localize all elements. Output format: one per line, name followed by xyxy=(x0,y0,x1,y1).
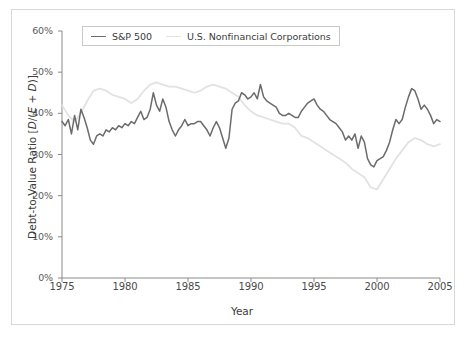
legend-label: U.S. Nonfinancial Corporations xyxy=(187,31,331,42)
y-axis-tick-label: 60% xyxy=(23,25,53,36)
series-line-u-s-nonfinancial-corporations xyxy=(62,82,440,189)
legend-line-swatch-icon xyxy=(91,36,106,37)
y-axis-label-d2: D xyxy=(26,83,38,91)
x-axis-tick-label: 1980 xyxy=(105,281,145,292)
legend-entry[interactable]: S&P 500 xyxy=(91,31,152,42)
y-axis-label-d: D xyxy=(26,121,38,129)
x-axis-tick-label: 1990 xyxy=(231,281,271,292)
x-axis-tick-label: 2000 xyxy=(357,281,397,292)
legend-entry[interactable]: U.S. Nonfinancial Corporations xyxy=(166,31,331,42)
y-axis-label-e: E xyxy=(26,107,38,114)
legend-label: S&P 500 xyxy=(112,31,152,42)
x-axis-tick-label: 1985 xyxy=(168,281,208,292)
chart-legend: S&P 500U.S. Nonfinancial Corporations xyxy=(82,26,340,46)
x-axis-tick-label: 1995 xyxy=(294,281,334,292)
y-axis-label-text: Debt-to-Value Ratio [ xyxy=(26,129,38,239)
y-axis-label: Debt-to-Value Ratio [D/(E + D)] xyxy=(26,52,38,262)
y-axis-label-end: )] xyxy=(26,75,38,83)
legend-line-swatch-icon xyxy=(166,36,181,37)
x-axis-tick-label: 2005 xyxy=(420,281,460,292)
y-axis-label-sep: /( xyxy=(26,114,38,122)
x-axis-tick-label: 1975 xyxy=(42,281,82,292)
y-axis-label-plus: + xyxy=(26,91,38,106)
x-axis-label: Year xyxy=(62,305,422,317)
figure-container: 0%10%20%30%40%50%60% 1975198019851990199… xyxy=(0,0,474,345)
chart-plot-area xyxy=(0,0,474,345)
